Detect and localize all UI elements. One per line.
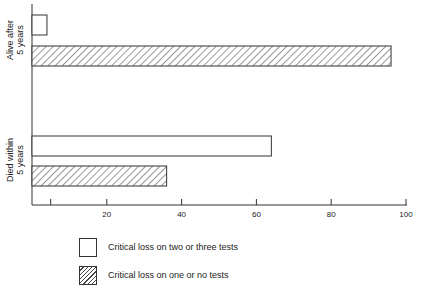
legend-label: Critical loss on two or three tests — [108, 242, 238, 252]
x-tick-label: 100 — [399, 210, 413, 219]
bar-white — [32, 15, 47, 35]
x-tick-label: 40 — [177, 210, 186, 219]
legend-swatch-hatched — [79, 266, 97, 285]
legend-label: Critical loss on one or no tests — [108, 270, 229, 280]
bar-white — [32, 136, 271, 156]
svg-text:5 years: 5 years — [15, 25, 25, 55]
svg-text:Alive after: Alive after — [5, 20, 15, 60]
category-label: Alive after5 years — [5, 20, 25, 60]
bars — [32, 15, 391, 186]
legend-swatch-white — [79, 238, 97, 257]
bar-hatched — [32, 166, 167, 186]
category-labels: Alive after5 yearsDied within5 years — [5, 20, 25, 182]
svg-text:Died within: Died within — [5, 138, 15, 182]
legend-item-one-or-none: Critical loss on one or no tests — [79, 266, 399, 286]
category-label: Died within5 years — [5, 138, 25, 182]
x-tick-label: 60 — [252, 210, 261, 219]
svg-text:5 years: 5 years — [15, 145, 25, 175]
legend-item-two-or-three: Critical loss on two or three tests — [79, 238, 399, 258]
x-ticks: 20406080100 — [51, 199, 414, 219]
x-tick-label: 80 — [327, 210, 336, 219]
bar-hatched — [32, 46, 391, 66]
x-tick-label: 20 — [102, 210, 111, 219]
